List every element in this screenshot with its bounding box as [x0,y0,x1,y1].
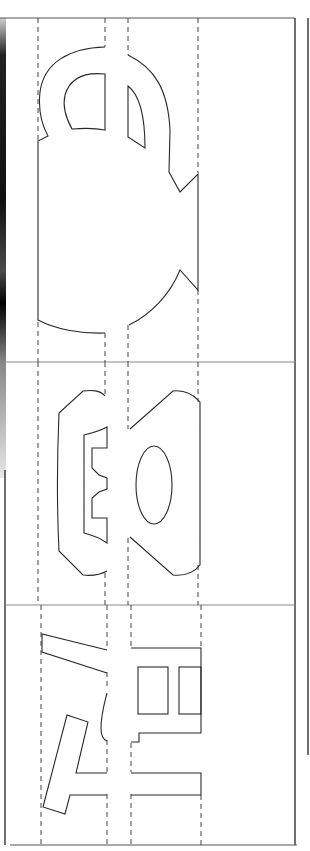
panel-dividers [4,362,295,605]
template-sheet [0,0,310,851]
panel-letters [41,605,201,845]
template-drawing [0,0,310,851]
panel-telephone [38,362,200,605]
outer-frame [0,18,308,845]
panel-mug [38,18,198,362]
